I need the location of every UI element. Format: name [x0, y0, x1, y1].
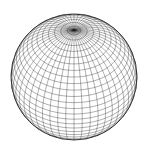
grid-line [74, 30, 136, 64]
grid-line [66, 30, 74, 140]
wireframe-sphere [0, 0, 149, 154]
grid-line [74, 30, 82, 140]
sphere-grid-lines [11, 14, 137, 140]
grid-line [12, 30, 74, 64]
